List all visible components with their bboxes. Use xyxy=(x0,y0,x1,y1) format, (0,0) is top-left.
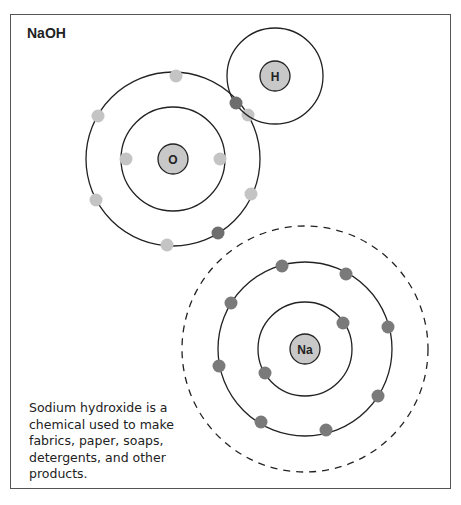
electron xyxy=(225,297,238,310)
electron xyxy=(170,70,183,83)
shared-electron-h xyxy=(230,97,243,110)
electron xyxy=(245,188,258,201)
electron xyxy=(259,367,272,380)
electron xyxy=(337,317,350,330)
electron xyxy=(213,360,226,373)
oxygen-label: O xyxy=(168,153,177,167)
electron xyxy=(255,416,268,429)
caption-text: Sodium hydroxide is a chemical used to m… xyxy=(29,400,189,483)
sodium-label: Na xyxy=(297,343,313,357)
electron xyxy=(382,321,395,334)
electron xyxy=(92,110,105,123)
hydrogen-label: H xyxy=(271,70,280,84)
electron xyxy=(276,260,289,273)
oxygen-atom: O xyxy=(86,70,260,252)
electron xyxy=(320,424,333,437)
electron xyxy=(340,268,353,281)
electron xyxy=(120,153,133,166)
hydrogen-atom: H xyxy=(227,28,323,124)
sodium-atom: Na xyxy=(182,226,428,472)
electron xyxy=(90,194,103,207)
electron xyxy=(372,390,385,403)
electron xyxy=(214,153,227,166)
shared-electron-na xyxy=(212,227,225,240)
electron xyxy=(161,239,174,252)
